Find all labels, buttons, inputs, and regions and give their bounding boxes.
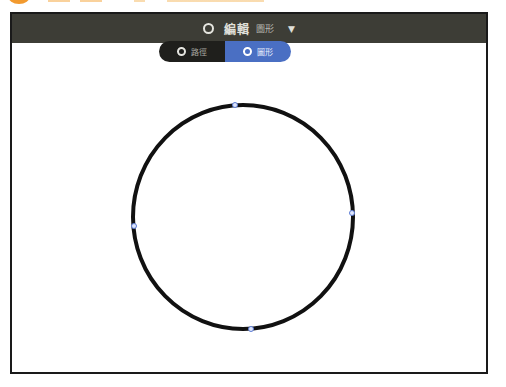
anchor-handle-right[interactable]	[350, 211, 355, 216]
anchor-handle-top[interactable]	[233, 103, 238, 108]
ellipse-path[interactable]	[133, 105, 353, 329]
ellipse-shape[interactable]	[0, 0, 506, 387]
anchor-handle-bottom[interactable]	[249, 327, 254, 332]
anchor-handle-left[interactable]	[132, 224, 137, 229]
